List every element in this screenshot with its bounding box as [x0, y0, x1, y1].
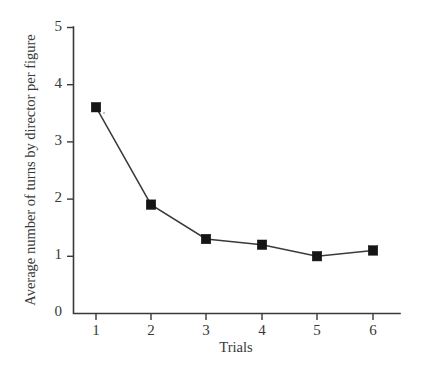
y-tick-label-5: 5 [55, 18, 63, 34]
x-tick-label-2: 2 [147, 322, 155, 338]
chart-figure: 5 4 3 2 1 0 1 2 3 4 5 6 [0, 0, 424, 371]
y-axis-tick-labels: 5 4 3 2 1 0 [55, 18, 63, 319]
scan-speck [103, 112, 105, 114]
y-tick-label-4: 4 [55, 75, 63, 91]
data-point-marker [257, 240, 267, 250]
y-axis-ticks [67, 28, 74, 257]
y-tick-label-3: 3 [55, 132, 63, 148]
x-tick-label-1: 1 [92, 322, 100, 338]
y-tick-label-1: 1 [55, 246, 63, 262]
data-series-line [96, 107, 373, 256]
x-axis-ticks [96, 314, 373, 321]
y-tick-label-2: 2 [55, 189, 63, 205]
x-tick-label-5: 5 [313, 322, 321, 338]
x-tick-label-6: 6 [369, 322, 377, 338]
axes-group [74, 27, 401, 314]
data-point-marker [91, 102, 101, 112]
line-chart: 5 4 3 2 1 0 1 2 3 4 5 6 [0, 0, 424, 371]
data-point-marker [146, 200, 156, 210]
data-series-markers [91, 102, 378, 260]
x-tick-label-4: 4 [258, 322, 266, 338]
data-point-marker [312, 251, 322, 261]
x-tick-label-3: 3 [202, 322, 210, 338]
x-axis-title: Trials [219, 339, 253, 355]
y-axis-title: Average number of turns by director per … [22, 34, 38, 306]
axis-lines [74, 27, 401, 314]
data-point-marker [368, 246, 378, 256]
y-tick-label-0: 0 [55, 303, 63, 319]
x-axis-tick-labels: 1 2 3 4 5 6 [92, 322, 377, 338]
data-point-marker [201, 234, 211, 244]
